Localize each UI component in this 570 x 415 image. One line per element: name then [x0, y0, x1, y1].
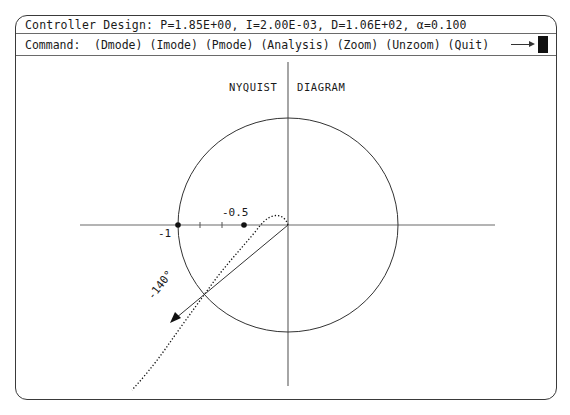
minus-one-label: -1 [158, 227, 171, 240]
phase-margin-vector [176, 225, 288, 318]
diagram-title-right: DIAGRAM [297, 81, 345, 93]
nyquist-plot [0, 0, 570, 415]
minus-half-label: -0.5 [222, 206, 249, 219]
minus-half-point [241, 222, 247, 228]
arrowhead-icon [170, 312, 181, 323]
minus-one-point [175, 222, 181, 228]
diagram-title-left: NYQUIST [229, 81, 277, 93]
nyquist-locus [132, 215, 288, 390]
